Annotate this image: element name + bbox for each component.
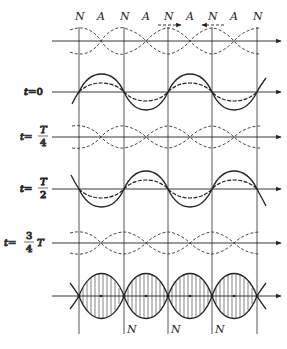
svg-text:t=: t= bbox=[20, 183, 32, 194]
svg-text:t=: t= bbox=[4, 237, 16, 248]
standing-wave-diagram: N A N A N A N A N t=0 t= T 4 t= T bbox=[0, 0, 287, 349]
svg-text:N: N bbox=[252, 10, 263, 23]
svg-text:A: A bbox=[229, 10, 238, 23]
row-incident-waves bbox=[52, 28, 281, 55]
svg-text:2: 2 bbox=[40, 189, 46, 200]
row-tT2: t= T 2 bbox=[20, 171, 281, 207]
svg-text:N: N bbox=[126, 323, 137, 336]
row-t3T4: t= 3 4 T bbox=[4, 230, 281, 254]
svg-text:N: N bbox=[214, 323, 225, 336]
bottom-labels: N N N bbox=[126, 323, 225, 336]
svg-text:T: T bbox=[37, 237, 45, 248]
svg-text:4: 4 bbox=[40, 137, 46, 148]
svg-text:A: A bbox=[185, 10, 194, 23]
svg-text:T: T bbox=[40, 176, 48, 187]
row-tT4: t= T 4 bbox=[20, 124, 281, 148]
top-labels: N A N A N A N A N bbox=[74, 10, 263, 23]
svg-text:T: T bbox=[40, 124, 48, 135]
svg-text:N: N bbox=[74, 10, 85, 23]
svg-text:t=0: t=0 bbox=[24, 86, 43, 97]
svg-text:N: N bbox=[170, 323, 181, 336]
row-envelope bbox=[52, 273, 281, 319]
svg-text:A: A bbox=[141, 10, 150, 23]
row-t0: t=0 bbox=[24, 74, 281, 110]
svg-text:N: N bbox=[207, 10, 218, 23]
svg-text:4: 4 bbox=[26, 243, 32, 254]
svg-text:N: N bbox=[163, 10, 174, 23]
svg-text:A: A bbox=[96, 10, 105, 23]
svg-text:3: 3 bbox=[26, 230, 32, 241]
svg-text:t=: t= bbox=[20, 131, 32, 142]
svg-text:N: N bbox=[119, 10, 130, 23]
